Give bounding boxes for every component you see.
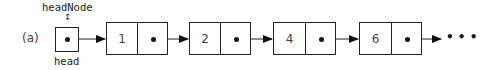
ellipsis-icon: • • • — [446, 30, 477, 44]
pointer-dot-icon — [151, 37, 156, 42]
list-node: 1 — [106, 22, 168, 55]
node-value: 1 — [107, 23, 138, 54]
linked-list-diagram: (a) headNode ↕ head 1 2 4 6 • • • — [0, 0, 490, 70]
list-node: 6 — [359, 22, 422, 55]
list-node: 2 — [189, 22, 251, 55]
list-node: 4 — [273, 22, 336, 55]
pointer-dot-icon — [234, 37, 239, 42]
link-symbol-icon: ↕ — [64, 12, 72, 22]
node-value: 4 — [274, 23, 306, 54]
pointer-dot-icon — [319, 37, 324, 42]
figure-label: (a) — [22, 31, 39, 45]
node-value: 2 — [190, 23, 221, 54]
pointer-dot-icon — [65, 37, 70, 42]
head-label: head — [54, 55, 79, 67]
node-value: 6 — [360, 23, 392, 54]
pointer-dot-icon — [405, 37, 410, 42]
head-pointer-box — [55, 27, 79, 52]
